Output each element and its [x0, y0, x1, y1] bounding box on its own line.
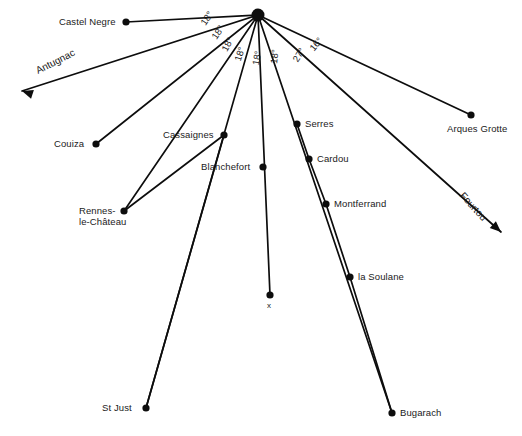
node-label-arques-grotte: Arques Grotte: [447, 123, 507, 134]
chain-hub-cassaignes-blanchefort-stjust: [146, 135, 224, 408]
angle-label-angle-6: 18°: [268, 49, 280, 64]
chain-cassaignes-rennes: [124, 135, 224, 211]
ray-arques-grotte: [258, 15, 471, 115]
node-dot-montferrand[interactable]: [322, 200, 329, 207]
node-dot-x-marker[interactable]: [266, 291, 273, 298]
node-label-serres: Serres: [305, 118, 334, 129]
ray-lines-group: [96, 15, 471, 413]
hub-group: [252, 9, 265, 22]
node-label-la-soulane: la Soulane: [358, 271, 404, 282]
node-label-bugarach: Bugarach: [400, 407, 441, 418]
node-label-blanchefort: Blanchefort: [201, 161, 250, 172]
node-dots-group: [92, 18, 474, 416]
node-dot-cassaignes[interactable]: [220, 131, 227, 138]
node-dot-st-just[interactable]: [142, 404, 149, 411]
chain-lines-group: [124, 124, 392, 413]
ray-rennes-le-chateau: [124, 15, 258, 211]
chain-hub-serres-cardou-montferrand-soulane-bugarach: [297, 124, 392, 413]
alignment-diagram: Castel NegreCouizaCassaignesSerresArques…: [0, 0, 522, 436]
node-label-st-just: St Just: [102, 402, 132, 413]
node-label-montferrand: Montferrand: [334, 198, 386, 209]
node-dot-castel-negre[interactable]: [122, 18, 129, 25]
node-dot-couiza[interactable]: [92, 140, 99, 147]
node-label-rennes-le-chateau: Rennes- le-Château: [79, 205, 126, 227]
route-antugnac-arrowhead: [22, 90, 34, 99]
hub-dot[interactable]: [252, 9, 265, 22]
node-dot-la-soulane[interactable]: [346, 273, 353, 280]
node-label-x-marker: x: [267, 301, 271, 310]
node-label-castel-negre: Castel Negre: [59, 16, 116, 27]
node-label-cardou: Cardou: [317, 153, 349, 164]
node-label-couiza: Couiza: [54, 138, 84, 149]
node-label-cassaignes: Cassaignes: [163, 129, 214, 140]
node-dot-cardou[interactable]: [305, 155, 312, 162]
node-dot-arques-grotte[interactable]: [467, 111, 474, 118]
route-lines-group: [22, 15, 501, 232]
ray-couiza: [96, 15, 258, 144]
node-dot-bugarach[interactable]: [388, 409, 395, 416]
node-dot-blanchefort[interactable]: [259, 163, 266, 170]
node-dot-serres[interactable]: [293, 120, 300, 127]
